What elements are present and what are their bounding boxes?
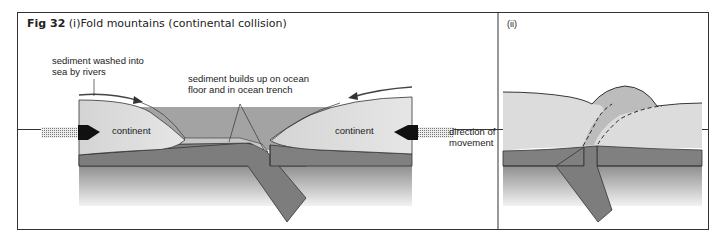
panel-ii-label: (ii) (507, 19, 517, 29)
label-sediment-ocean: sediment builds up on ocean floor and in… (188, 73, 309, 95)
river-arrow-right (352, 87, 412, 97)
figure-title-text: Fold mountains (continental collision) (80, 17, 286, 30)
mantle (79, 166, 412, 206)
label-continent-right: continent (335, 125, 374, 136)
figure-number: Fig 32 (27, 17, 65, 30)
fold-mountains-figure (0, 0, 725, 238)
figure-title: Fig 32 (i)Fold mountains (continental co… (27, 17, 287, 30)
label-continent-left: continent (112, 125, 151, 136)
label-direction-of-movement: direction of movement (449, 126, 495, 148)
panel-ii-diagram (503, 86, 702, 222)
movement-arrow-left (41, 125, 100, 140)
label-sediment-rivers: sediment washed into sea by rivers (52, 55, 144, 77)
panel-i-label: (i) (69, 17, 81, 30)
panel-i-diagram (41, 79, 454, 222)
